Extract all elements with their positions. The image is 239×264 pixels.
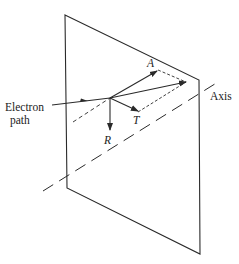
resultant-vector-arrow [110,82,186,98]
electron-path-label-line1: Electron [5,101,44,113]
electron-scattering-diagram: Electron path Axis A T R [0,0,239,264]
vector-a-label: A [146,57,155,69]
scattering-plane [65,15,200,254]
vector-r-label: R [103,134,111,146]
axis-label: Axis [210,90,232,102]
electron-path-label-line2: path [10,114,30,127]
vector-t-label: T [133,114,141,126]
vector-t-arrow [110,98,138,111]
vector-a-arrow [110,71,157,98]
axis-line [43,82,218,191]
